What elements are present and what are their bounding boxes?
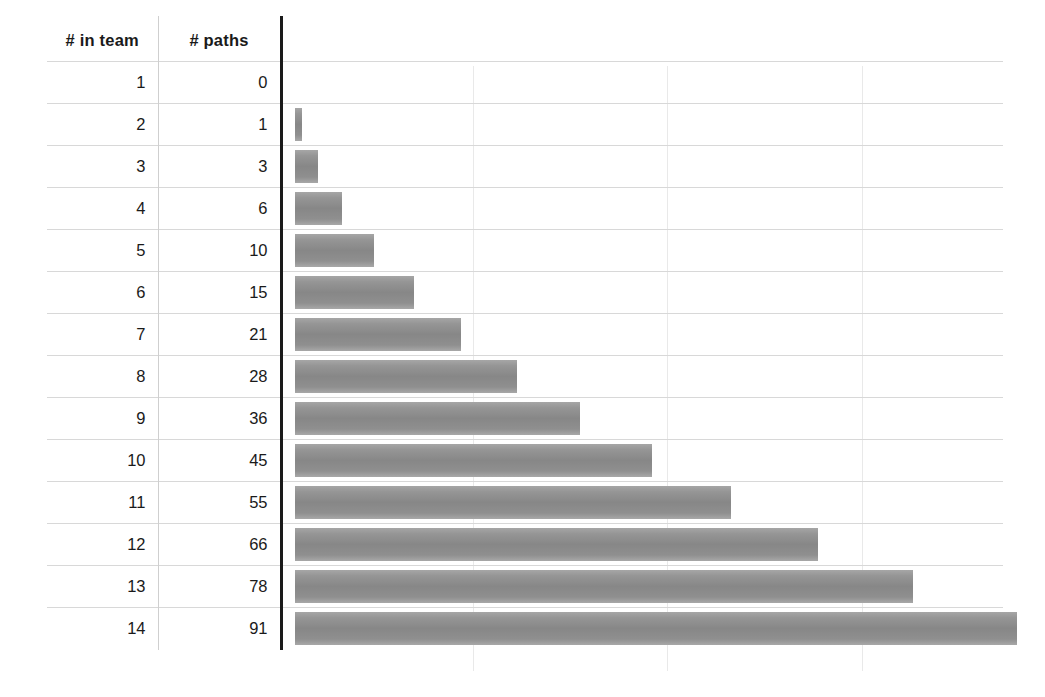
cell-bar-track: [281, 608, 1003, 650]
table-row: 46: [47, 188, 1003, 230]
bar: [295, 444, 652, 477]
cell-path-count: 91: [158, 608, 281, 650]
cell-bar-track: [281, 566, 1003, 608]
bar-chart-figure: # in team # paths 1021334651061572182893…: [0, 0, 1045, 697]
column-header-paths: # paths: [158, 16, 281, 62]
table-row: 33: [47, 146, 1003, 188]
cell-path-count: 28: [158, 356, 281, 398]
table-row: 10: [47, 62, 1003, 104]
cell-team-size: 3: [47, 146, 158, 188]
cell-path-count: 66: [158, 524, 281, 566]
table-row: 936: [47, 398, 1003, 440]
cell-path-count: 21: [158, 314, 281, 356]
table-row: 828: [47, 356, 1003, 398]
cell-team-size: 8: [47, 356, 158, 398]
cell-team-size: 4: [47, 188, 158, 230]
table-row: 615: [47, 272, 1003, 314]
cell-bar-track: [281, 146, 1003, 188]
cell-team-size: 12: [47, 524, 158, 566]
bar: [295, 318, 462, 351]
cell-bar-track: [281, 188, 1003, 230]
cell-path-count: 1: [158, 104, 281, 146]
cell-path-count: 10: [158, 230, 281, 272]
bar: [295, 486, 731, 519]
cell-bar-track: [281, 104, 1003, 146]
cell-team-size: 6: [47, 272, 158, 314]
cell-bar-track: [281, 440, 1003, 482]
table-header: # in team # paths: [47, 16, 1003, 62]
bar: [295, 570, 914, 603]
cell-bar-track: [281, 230, 1003, 272]
cell-bar-track: [281, 62, 1003, 104]
table-body: 1021334651061572182893610451155126613781…: [47, 62, 1003, 650]
cell-team-size: 13: [47, 566, 158, 608]
cell-team-size: 7: [47, 314, 158, 356]
cell-team-size: 11: [47, 482, 158, 524]
bar: [295, 108, 303, 141]
bar: [295, 360, 517, 393]
table-row: 21: [47, 104, 1003, 146]
cell-team-size: 5: [47, 230, 158, 272]
header-row: # in team # paths: [47, 16, 1003, 62]
cell-path-count: 6: [158, 188, 281, 230]
cell-path-count: 0: [158, 62, 281, 104]
cell-bar-track: [281, 524, 1003, 566]
cell-path-count: 55: [158, 482, 281, 524]
bar: [295, 528, 819, 561]
cell-path-count: 78: [158, 566, 281, 608]
table-row: 1491: [47, 608, 1003, 650]
cell-team-size: 10: [47, 440, 158, 482]
column-header-team: # in team: [47, 16, 158, 62]
bar: [295, 612, 1017, 645]
paths-per-team-table: # in team # paths 1021334651061572182893…: [47, 16, 1003, 650]
cell-bar-track: [281, 314, 1003, 356]
cell-bar-track: [281, 398, 1003, 440]
bar: [295, 234, 374, 267]
cell-team-size: 1: [47, 62, 158, 104]
bar: [295, 192, 343, 225]
cell-team-size: 9: [47, 398, 158, 440]
bar: [295, 150, 319, 183]
bar: [295, 402, 581, 435]
cell-bar-track: [281, 272, 1003, 314]
table-row: 1266: [47, 524, 1003, 566]
cell-path-count: 36: [158, 398, 281, 440]
cell-bar-track: [281, 356, 1003, 398]
table-row: 1155: [47, 482, 1003, 524]
cell-team-size: 2: [47, 104, 158, 146]
cell-path-count: 45: [158, 440, 281, 482]
cell-bar-track: [281, 482, 1003, 524]
table-row: 721: [47, 314, 1003, 356]
bar: [295, 276, 414, 309]
cell-team-size: 14: [47, 608, 158, 650]
table-row: 510: [47, 230, 1003, 272]
column-header-bars: [281, 16, 1003, 62]
table-row: 1378: [47, 566, 1003, 608]
table-row: 1045: [47, 440, 1003, 482]
cell-path-count: 3: [158, 146, 281, 188]
cell-path-count: 15: [158, 272, 281, 314]
